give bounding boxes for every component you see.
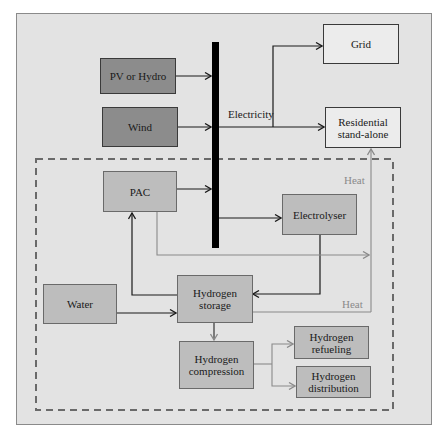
arrow-compression-to-refueling <box>272 344 293 364</box>
node-residential-stand-alone: Residential stand-alone <box>325 107 401 148</box>
node-label-line2: storage <box>199 299 231 311</box>
node-wind: Wind <box>102 107 178 147</box>
node-label-line1: Hydrogen <box>312 370 356 382</box>
node-hydrogen-refueling: Hydrogen refueling <box>294 326 369 359</box>
node-hydrogen-compression: Hydrogen compression <box>179 341 254 389</box>
edge-label-heat-bottom: Heat <box>342 298 363 310</box>
node-label: Wind <box>128 121 152 133</box>
node-grid: Grid <box>323 24 399 64</box>
node-electrolyser: Electrolyser <box>282 194 357 235</box>
node-label-line2: stand-alone <box>338 128 389 140</box>
electricity-bus-bar <box>212 42 219 248</box>
node-hydrogen-storage: Hydrogen storage <box>177 275 253 323</box>
arrow-electrolyser-to-storage <box>253 234 320 294</box>
node-label: PV or Hydro <box>110 70 167 82</box>
node-label-line1: Hydrogen <box>193 287 237 299</box>
node-label-line2: compression <box>189 365 245 377</box>
node-label-line2: refueling <box>312 343 352 355</box>
node-label: PAC <box>130 186 150 198</box>
arrow-bus-to-grid <box>273 46 322 127</box>
node-pac: PAC <box>103 171 177 212</box>
edge-label-heat-top: Heat <box>344 174 365 186</box>
node-label: Grid <box>351 38 371 50</box>
node-water: Water <box>43 284 117 324</box>
node-label: Water <box>67 298 93 310</box>
node-label-line1: Hydrogen <box>195 353 239 365</box>
node-label-line1: Hydrogen <box>310 331 354 343</box>
node-pv-or-hydro: PV or Hydro <box>100 58 176 94</box>
edge-label-electricity: Electricity <box>228 108 274 120</box>
arrow-storage-to-pac <box>132 213 177 295</box>
node-hydrogen-distribution: Hydrogen distribution <box>296 366 371 398</box>
node-label-line2: distribution <box>308 382 359 394</box>
node-label-line1: Residential <box>338 116 388 128</box>
arrow-compression-to-distribution <box>272 364 295 386</box>
node-label: Electrolyser <box>293 209 346 221</box>
